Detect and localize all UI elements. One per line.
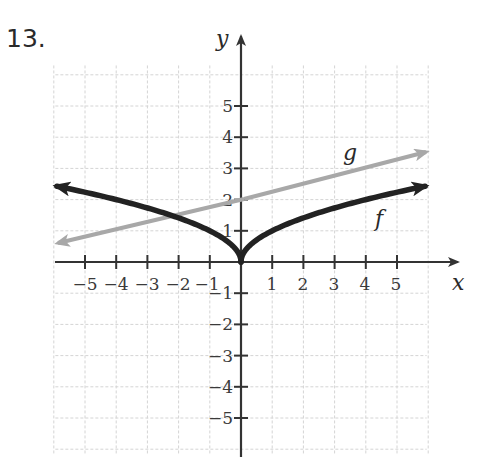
y-axis-label: y — [215, 26, 229, 51]
x-tick-label: −5 — [72, 274, 97, 294]
x-tick-label: −2 — [165, 274, 190, 294]
y-tick-label: 5 — [222, 96, 233, 116]
x-tick-label: 5 — [391, 274, 402, 294]
y-tick-label: −3 — [208, 346, 233, 366]
x-axis-label: x — [452, 270, 465, 295]
x-tick-label: −4 — [103, 274, 128, 294]
x-tick-labels: −5 −4 −3 −2 −1 1 2 3 4 5 — [72, 274, 401, 294]
y-tick-label: 4 — [222, 127, 233, 147]
y-tick-label: −1 — [208, 283, 233, 303]
y-tick-label: 3 — [222, 158, 233, 178]
x-tick-label: −3 — [134, 274, 159, 294]
y-tick-label: −2 — [208, 314, 233, 334]
function-g-label: g — [343, 140, 357, 165]
y-tick-label: −5 — [208, 408, 233, 428]
x-tick-label: 2 — [298, 274, 309, 294]
coordinate-graph: −5 −4 −3 −2 −1 1 2 3 4 5 1 2 3 4 5 −1 −2… — [0, 0, 495, 476]
y-tick-label: −4 — [208, 377, 233, 397]
x-tick-label: 4 — [360, 274, 371, 294]
x-tick-label: 3 — [329, 274, 340, 294]
x-tick-label: 1 — [267, 274, 278, 294]
function-f-label: f — [373, 206, 387, 231]
